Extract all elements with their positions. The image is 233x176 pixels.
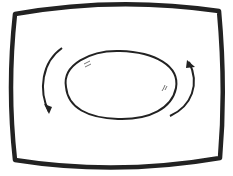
illustration [0,0,233,176]
center-ellipse [66,51,177,119]
rotate-arrow-right [170,62,194,116]
arrowhead-left-icon [44,104,52,114]
rotate-screen-icon [0,0,233,176]
arrowhead-right-icon [186,60,195,68]
rotate-arrow-left [43,48,62,112]
glint-mark [84,61,91,67]
glint-mark [162,85,167,91]
